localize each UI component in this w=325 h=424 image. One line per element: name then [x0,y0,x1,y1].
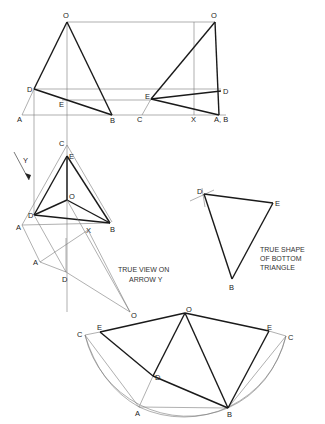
edge-eb-right [228,331,269,408]
label-e: E [69,152,74,161]
label-e: E [145,92,150,101]
aux-do [66,272,130,312]
caption-line-1: TRUE SHAPE [260,246,305,253]
edge-oab [215,22,219,115]
label-a: A [135,409,140,418]
auxiliary-view: A D O TRUE VIEW ON ARROW Y [22,200,169,320]
label-c: C [59,139,65,148]
label-d: D [27,85,33,94]
edge-ab [139,407,228,408]
plan-view: Y C E O D A B X [14,139,115,235]
label-c: C [137,115,143,124]
edge-ed [34,156,67,215]
edge-eb [151,99,219,115]
aux-ad [40,262,66,272]
label-o: O [63,11,69,20]
edge-de [204,194,273,203]
label-e-left: E [97,323,102,332]
edge-oe [151,22,215,99]
caption-line-2: ARROW Y [129,276,163,283]
proj-a [22,225,40,262]
label-d: D [28,211,34,220]
label-b: B [110,116,115,125]
edge-oe-left [100,313,185,332]
label-d: D [62,275,68,284]
development: O E C D A B E C [77,305,294,419]
edge-eb [67,156,110,223]
edge-ce-left [85,332,100,335]
edge-oe-right [185,313,269,331]
label-c-left: C [77,330,83,339]
aux-ground-line [40,230,88,262]
edge-bd [204,194,232,279]
label-a: A [16,223,21,232]
label-o: O [211,11,217,20]
edge-db [153,376,228,408]
label-o: O [186,305,192,314]
caption-line-2: OF BOTTOM [260,255,302,262]
edge-ob [67,22,112,115]
label-a: A [33,258,38,267]
label-ab: A, B [214,115,228,124]
caption-line-1: TRUE VIEW ON [118,266,169,273]
label-b: B [227,410,232,419]
label-o: O [69,192,75,201]
edge-ed [151,91,221,99]
label-c-right: C [288,333,294,342]
true-shape-triangle: D E B TRUE SHAPE OF BOTTOM TRIANGLE [190,187,305,292]
label-e: E [59,100,64,109]
side-elevation: O E D C X A, B [137,11,229,124]
edge-ob [185,313,228,408]
label-d: D [197,187,203,196]
label-o: O [131,311,137,320]
label-b: B [229,283,234,292]
chord-cb [228,336,286,408]
label-b: B [110,225,115,234]
edge-db [34,89,112,115]
label-a: A [17,115,22,124]
drawing-canvas: O D E A B O E D C X A, B Y C E [0,0,325,424]
arc-right [139,336,286,417]
label-e: E [275,199,280,208]
proj-d [34,215,66,272]
edge-ad [139,376,153,407]
label-d: D [223,87,229,96]
edge-do [153,313,185,376]
edge-od [34,22,67,89]
edge-ab [22,223,110,225]
label-y: Y [23,156,28,165]
label-d: D [155,373,161,382]
chord-ca [85,335,139,407]
label-x: X [191,115,196,124]
edge-ed [100,332,153,376]
caption-line-3: TRIANGLE [260,264,295,271]
label-e-right: E [267,323,272,332]
edge-ce [142,99,151,115]
